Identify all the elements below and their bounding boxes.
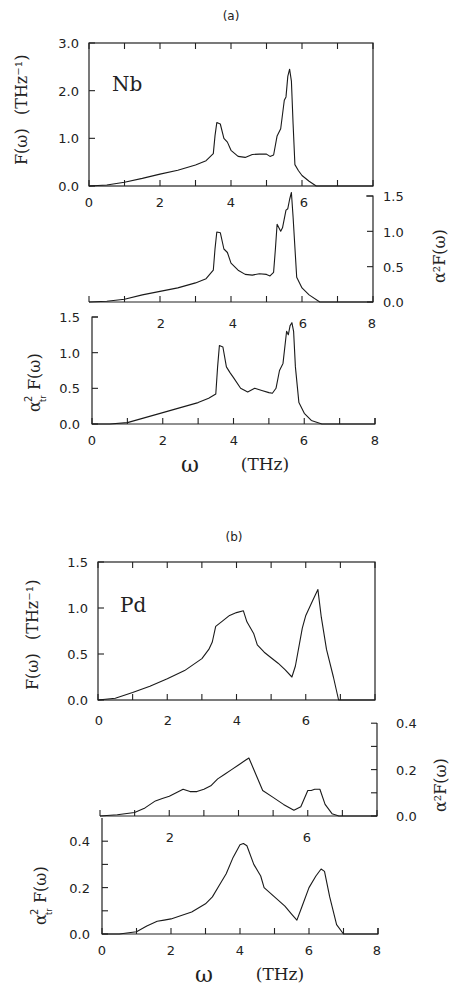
ytick-label: 0.0 <box>396 809 417 824</box>
ytick-label: 0.2 <box>69 881 90 896</box>
y-axis-label-pd-a2f: α²F(ω) <box>431 758 450 812</box>
x-axis-symbol: ω <box>195 962 213 987</box>
xtick-label: 4 <box>230 433 238 448</box>
svg-text:F(ω): F(ω) <box>31 866 50 903</box>
svg-text:F(ω): F(ω) <box>12 128 31 165</box>
ytick-label: 1.5 <box>67 555 88 570</box>
tick-marks <box>92 317 375 424</box>
xtick-label-top: 2 <box>157 316 165 331</box>
ytick-label: 0.5 <box>67 647 88 662</box>
plot-pd-transport: 2 6 0.4 0.2 0.0 0 2 4 6 8 α 2 tr F(ω) ω … <box>29 818 381 987</box>
plot-frame <box>102 818 378 934</box>
data-curve-nb-a2trf <box>92 323 375 424</box>
tick-marks <box>102 841 378 934</box>
svg-text:(THz⁻¹): (THz⁻¹) <box>12 55 31 115</box>
xtick-label-top: 4 <box>229 316 237 331</box>
svg-text:(THz⁻¹): (THz⁻¹) <box>23 580 42 640</box>
svg-text:F(ω): F(ω) <box>23 653 42 690</box>
xtick-label: 0 <box>88 433 96 448</box>
y-axis-label-pd-a2trf: α 2 tr F(ω) <box>29 866 54 925</box>
plot-frame <box>92 317 375 424</box>
ytick-label: 0.4 <box>396 716 417 731</box>
ytick-label: 1.0 <box>58 131 79 146</box>
element-label-pd: Pd <box>120 593 146 617</box>
xtick-label: 0 <box>95 713 103 728</box>
svg-text:α²F(ω): α²F(ω) <box>430 229 449 283</box>
x-axis-unit: (THz) <box>256 964 304 984</box>
svg-text:α²F(ω): α²F(ω) <box>431 758 450 812</box>
xtick-label: 8 <box>371 433 379 448</box>
xtick-label: 6 <box>300 433 308 448</box>
ytick-label: 0.0 <box>59 417 80 432</box>
plot-pd-eliashberg: 0.4 0.2 0.0 α²F(ω) <box>100 716 450 824</box>
plot-nb-eliashberg: 1.5 1.0 0.5 0.0 α²F(ω) <box>89 189 449 310</box>
ytick-label: 1.0 <box>59 346 80 361</box>
svg-text:F(ω): F(ω) <box>25 353 44 390</box>
xtick-label: 2 <box>156 195 164 210</box>
y-axis-label-nb-a2trf: α 2 tr F(ω) <box>23 353 48 412</box>
xtick-label-top: 8 <box>368 316 376 331</box>
x-axis-symbol: ω <box>181 452 199 477</box>
data-curve-pd-a2trf <box>102 844 378 935</box>
ytick-label: 1.5 <box>59 310 80 325</box>
plot-frame <box>89 196 373 302</box>
ytick-label: 0.2 <box>396 763 417 778</box>
xtick-label: 4 <box>233 713 241 728</box>
ytick-label: 0.0 <box>58 179 79 194</box>
svg-text:2: 2 <box>29 909 40 915</box>
ytick-label: 1.0 <box>67 601 88 616</box>
xtick-label: 8 <box>373 943 381 958</box>
figure: (a) Nb 3.0 2.0 1.0 0.0 0 2 4 6 F(ω) (THz… <box>0 0 463 997</box>
plot-pd-dos: Pd 1.5 1.0 0.5 0.0 0 2 4 6 F(ω) (THz⁻¹) <box>23 555 375 728</box>
xtick-label: 0 <box>98 943 106 958</box>
xtick-label: 2 <box>167 943 175 958</box>
xtick-label-top: 6 <box>303 830 311 845</box>
element-label-nb: Nb <box>112 72 142 96</box>
ytick-label: 0.4 <box>69 834 90 849</box>
ytick-label: 0.5 <box>383 260 404 275</box>
xtick-label: 0 <box>85 195 93 210</box>
ytick-label: 3.0 <box>58 36 79 51</box>
ytick-label: 0.0 <box>69 927 90 942</box>
data-curve-pd-a2f <box>100 758 377 816</box>
ytick-label: 0.5 <box>59 381 80 396</box>
plot-nb-transport: 2 4 6 8 1.5 1.0 0.5 0.0 0 2 4 6 8 α 2 tr… <box>23 310 379 477</box>
plot-frame <box>89 43 373 186</box>
xtick-label: 4 <box>236 943 244 958</box>
y-axis-label-pd-dos: F(ω) (THz⁻¹) <box>23 580 42 690</box>
plot-nb-dos: Nb 3.0 2.0 1.0 0.0 0 2 4 6 F(ω) (THz⁻¹) <box>12 36 373 210</box>
tick-marks <box>89 43 373 186</box>
ytick-label: 2.0 <box>58 84 79 99</box>
svg-text:2: 2 <box>23 396 34 402</box>
xtick-label: 6 <box>302 713 310 728</box>
panel-a-label: (a) <box>223 9 240 23</box>
xtick-label: 4 <box>227 195 235 210</box>
ytick-label: 0.0 <box>67 693 88 708</box>
tick-marks <box>100 723 377 816</box>
plot-frame <box>100 723 377 816</box>
y-axis-label-nb-a2f: α²F(ω) <box>430 229 449 283</box>
xtick-label-top: 2 <box>166 830 174 845</box>
xtick-label: 6 <box>300 195 308 210</box>
svg-text:tr: tr <box>39 395 48 402</box>
xtick-label-top: 6 <box>299 316 307 331</box>
x-axis-unit: (THz) <box>241 454 289 474</box>
y-axis-label-nb-dos: F(ω) (THz⁻¹) <box>12 55 31 165</box>
xtick-label: 6 <box>305 943 313 958</box>
tick-marks <box>89 196 373 302</box>
ytick-label: 0.0 <box>383 295 404 310</box>
ytick-label: 1.0 <box>383 225 404 240</box>
xtick-label: 2 <box>164 713 172 728</box>
svg-text:tr: tr <box>45 908 54 915</box>
ytick-label: 1.5 <box>383 189 404 204</box>
panel-b-label: (b) <box>226 530 243 544</box>
xtick-label: 2 <box>159 433 167 448</box>
